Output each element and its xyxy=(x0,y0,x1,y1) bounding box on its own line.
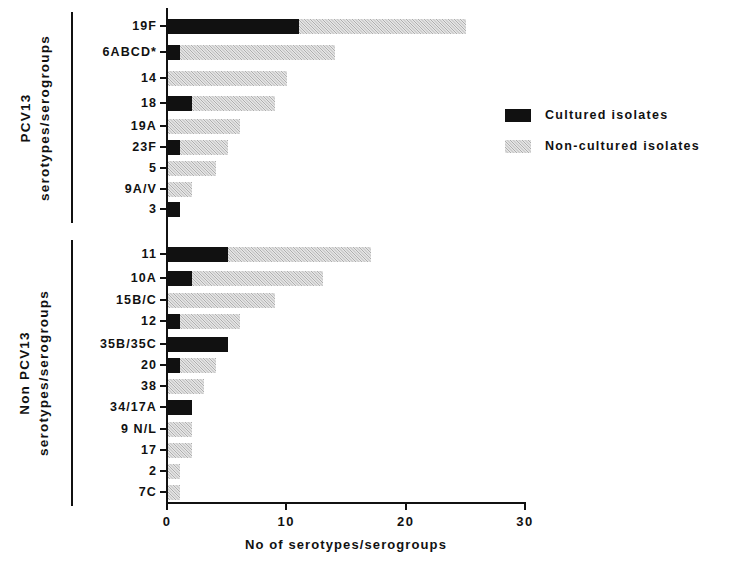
group-label-line2: serotypes/serogroups xyxy=(34,240,53,506)
bar-row xyxy=(168,400,192,415)
bar-segment-non-cultured xyxy=(168,485,180,500)
group-bracket-non-pcv13 xyxy=(71,240,73,506)
bar-row xyxy=(168,464,180,479)
group-label-line1: Non PCV13 xyxy=(15,240,34,506)
plot-area: 0102030 xyxy=(167,8,525,502)
bar-chart: PCV13serotypes/serogroups Non PCV13serot… xyxy=(0,0,737,565)
group-label-pcv13: PCV13serotypes/serogroups xyxy=(15,12,55,223)
bar-row xyxy=(168,358,216,373)
legend-label-cultured: Cultured isolates xyxy=(545,108,669,122)
y-axis-label: 3 xyxy=(149,202,157,216)
y-axis-label: 10A xyxy=(131,271,157,285)
y-axis-label: 12 xyxy=(141,314,157,328)
bar-segment-non-cultured xyxy=(168,161,216,176)
bar-row xyxy=(168,161,216,176)
y-axis-label: 19A xyxy=(131,119,157,133)
bar-row xyxy=(168,140,228,155)
bar-row xyxy=(168,19,466,34)
x-axis-tick-label: 20 xyxy=(397,514,414,529)
y-axis-label: 23F xyxy=(132,140,157,154)
bar-segment-non-cultured xyxy=(299,19,466,34)
bar-row xyxy=(168,314,240,329)
legend-swatch-non-cultured xyxy=(505,140,531,153)
bar-row xyxy=(168,293,275,308)
bar-segment-non-cultured xyxy=(168,443,192,458)
legend: Cultured isolates Non-cultured isolates xyxy=(505,108,700,170)
bar-row xyxy=(168,379,204,394)
bar-row xyxy=(168,202,180,217)
bar-segment-non-cultured xyxy=(168,464,180,479)
x-axis-tick xyxy=(405,502,407,510)
y-axis-label: 38 xyxy=(141,379,157,393)
bar-row xyxy=(168,485,180,500)
bar-row xyxy=(168,119,240,134)
x-axis-tick xyxy=(524,502,526,510)
bar-row xyxy=(168,443,192,458)
bar-segment-non-cultured xyxy=(168,422,192,437)
bar-segment-cultured xyxy=(168,202,180,217)
y-axis-label: 2 xyxy=(149,464,157,478)
bar-segment-cultured xyxy=(168,271,192,286)
y-axis-label: 9A/V xyxy=(125,182,157,196)
bar-row xyxy=(168,45,335,60)
bar-segment-non-cultured xyxy=(180,140,228,155)
y-axis-label: 35B/35C xyxy=(100,337,157,351)
x-axis-tick-label: 10 xyxy=(278,514,295,529)
y-axis-label: 34/17A xyxy=(110,400,157,414)
y-axis-label: 6ABCD* xyxy=(102,45,157,59)
bar-segment-non-cultured xyxy=(228,247,371,262)
y-axis-label: 17 xyxy=(141,443,157,457)
y-axis-label: 11 xyxy=(142,247,157,261)
legend-label-non-cultured: Non-cultured isolates xyxy=(545,139,700,153)
y-axis-label: 5 xyxy=(149,161,157,175)
bar-segment-non-cultured xyxy=(180,45,335,60)
legend-item-non-cultured: Non-cultured isolates xyxy=(505,139,700,153)
bar-segment-cultured xyxy=(168,400,192,415)
y-axis-label: 9 N/L xyxy=(121,422,157,436)
x-axis-tick-label: 30 xyxy=(516,514,533,529)
bar-row xyxy=(168,337,228,352)
bar-segment-non-cultured xyxy=(168,293,275,308)
group-bracket-pcv13 xyxy=(71,12,73,223)
bar-row xyxy=(168,247,371,262)
bar-segment-non-cultured xyxy=(192,96,276,111)
bar-row xyxy=(168,96,275,111)
y-axis-label: 19F xyxy=(132,19,157,33)
bar-segment-non-cultured xyxy=(168,379,204,394)
y-axis-label: 15B/C xyxy=(116,293,157,307)
bar-segment-cultured xyxy=(168,96,192,111)
legend-swatch-cultured xyxy=(505,109,531,122)
bar-segment-cultured xyxy=(168,247,228,262)
y-axis-label: 14 xyxy=(141,71,157,85)
y-axis-label: 7C xyxy=(139,485,157,499)
group-label-line1: PCV13 xyxy=(15,12,34,223)
bar-row xyxy=(168,422,192,437)
x-axis-line xyxy=(166,502,526,504)
bar-segment-non-cultured xyxy=(168,71,287,86)
bar-segment-cultured xyxy=(168,358,180,373)
bar-segment-non-cultured xyxy=(168,182,192,197)
bar-segment-cultured xyxy=(168,45,180,60)
x-axis-title: No of serotypes/serogroups xyxy=(167,537,525,552)
bar-segment-non-cultured xyxy=(180,314,240,329)
bar-row xyxy=(168,71,287,86)
x-axis-tick-label: 0 xyxy=(163,514,172,529)
group-label-non-pcv13: Non PCV13serotypes/serogroups xyxy=(15,240,55,506)
bar-row xyxy=(168,182,192,197)
bar-segment-non-cultured xyxy=(168,119,240,134)
y-axis-label: 18 xyxy=(141,96,157,110)
bar-row xyxy=(168,271,323,286)
bar-segment-cultured xyxy=(168,314,180,329)
y-axis-label: 20 xyxy=(141,358,157,372)
bar-segment-non-cultured xyxy=(180,358,216,373)
x-axis-tick xyxy=(166,502,168,510)
bar-segment-non-cultured xyxy=(192,271,323,286)
bar-segment-cultured xyxy=(168,140,180,155)
bar-segment-cultured xyxy=(168,337,228,352)
bar-segment-cultured xyxy=(168,19,299,34)
x-axis-tick xyxy=(285,502,287,510)
group-label-line2: serotypes/serogroups xyxy=(34,12,53,223)
legend-item-cultured: Cultured isolates xyxy=(505,108,700,122)
